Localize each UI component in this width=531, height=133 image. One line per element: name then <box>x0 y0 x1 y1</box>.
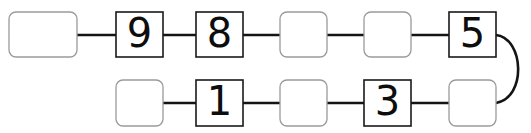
empty-cell-border <box>280 12 327 57</box>
top-row-empty-box-3[interactable] <box>280 12 327 57</box>
top-row-digit-box-5-5[interactable]: 5 <box>449 10 496 58</box>
linked-boxes-diagram: 98513 <box>0 0 531 133</box>
cell-digit-value: 1 <box>207 78 232 124</box>
bottom-row-empty-box-0[interactable] <box>116 80 163 126</box>
top-row-empty-box-4[interactable] <box>364 12 411 57</box>
cell-digit-value: 5 <box>460 10 485 56</box>
bottom-row-empty-box-2[interactable] <box>280 80 327 126</box>
cell-digit-value: 3 <box>375 78 400 124</box>
top-row-digit-box-8-2[interactable]: 8 <box>196 10 243 58</box>
empty-cell-border <box>364 12 411 57</box>
empty-cell-border <box>116 80 163 126</box>
cell-digit-value: 8 <box>207 10 232 56</box>
wrap-connector-layer <box>496 35 518 103</box>
empty-cell-border <box>280 80 327 126</box>
top-row-empty-box-0[interactable] <box>9 12 77 57</box>
diagram-canvas: 98513 <box>0 0 531 133</box>
empty-cell-border <box>9 12 77 57</box>
bottom-row-digit-box-3-3[interactable]: 3 <box>364 78 411 126</box>
bottom-row-digit-box-1-1[interactable]: 1 <box>196 78 243 126</box>
wrap-around-connector <box>496 35 518 103</box>
top-row-digit-box-9-1[interactable]: 9 <box>116 10 163 58</box>
cells-layer: 98513 <box>9 10 496 127</box>
bottom-row-empty-box-4[interactable] <box>449 80 496 126</box>
empty-cell-border <box>449 80 496 126</box>
cell-digit-value: 9 <box>127 10 152 56</box>
